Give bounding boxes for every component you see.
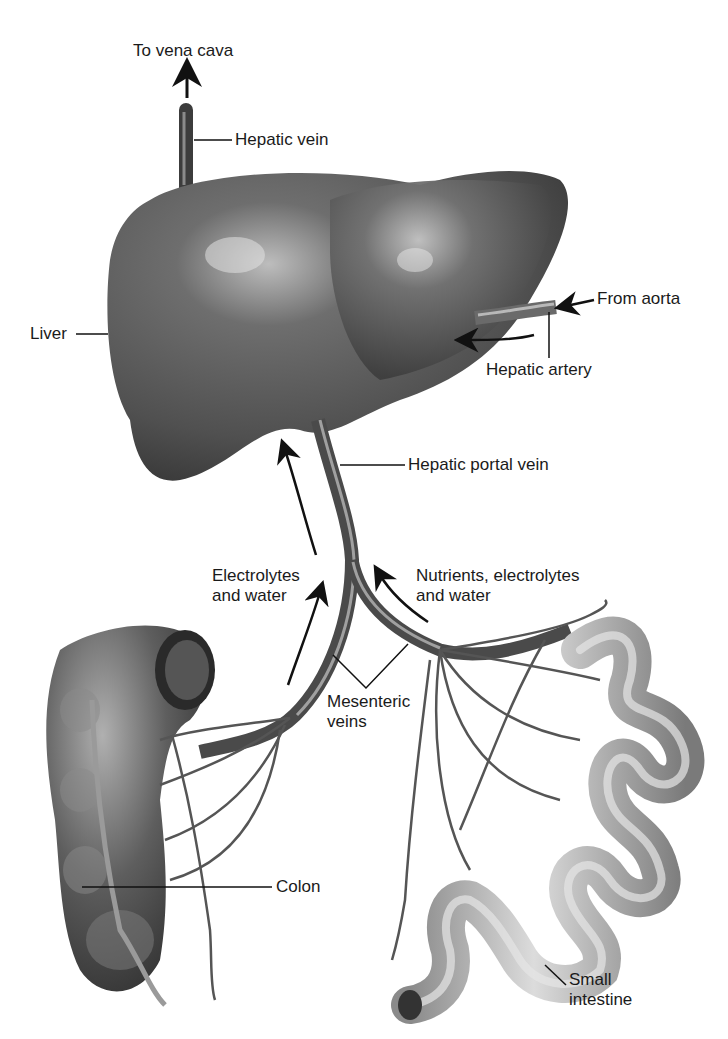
mesenteric-veins-leader [333,644,408,688]
label-line: veins [327,712,410,732]
hepatic-vein-vessel [184,110,186,190]
label-line: Nutrients, electrolytes [416,566,579,586]
colon-illustration [46,626,215,1005]
liver-illustration [107,171,568,481]
portal-vein-flow-arrow [285,450,316,555]
colon-mesenteric-branches [160,718,290,1000]
label-nutrients-electrolytes-water: Nutrients, electrolytes and water [416,566,579,606]
label-to-vena-cava: To vena cava [133,41,233,61]
label-line: intestine [569,990,632,1010]
label-line: Small [569,970,632,990]
label-from-aorta: From aorta [597,289,680,309]
label-line: and water [416,586,579,606]
hepatic-portal-diagram: To vena cava Hepatic vein Liver From aor… [0,0,728,1039]
label-colon: Colon [276,877,320,897]
label-liver: Liver [30,324,67,344]
label-line: and water [212,586,300,606]
label-hepatic-artery: Hepatic artery [486,360,592,380]
small-intestine-illustration [398,636,685,1020]
label-mesenteric-veins: Mesenteric veins [327,692,410,732]
label-hepatic-portal-vein: Hepatic portal vein [408,455,549,475]
label-small-intestine: Small intestine [569,970,632,1010]
label-line: Electrolytes [212,566,300,586]
label-hepatic-vein: Hepatic vein [235,130,329,150]
label-line: Mesenteric [327,692,410,712]
diagram-illustration [0,0,728,1039]
from-aorta-arrow [566,300,594,306]
label-electrolytes-and-water: Electrolytes and water [212,566,300,606]
